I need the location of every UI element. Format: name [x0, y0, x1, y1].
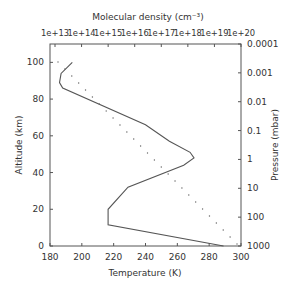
top-tick-label: 1e+17	[147, 28, 175, 38]
plot-frame	[50, 44, 241, 246]
right-tick-label: 0.1	[247, 126, 261, 136]
y-axis-ticks: 020406080100	[27, 57, 53, 251]
top-tick-label: 1e+19	[200, 28, 228, 38]
y-tick-label: 20	[33, 204, 45, 214]
x-tick-label: 200	[73, 252, 90, 262]
y-tick-label: 100	[27, 57, 44, 67]
x-tick-label: 220	[105, 252, 122, 262]
atmosphere-profile-chart: 180200220240260280300 020406080100 1e+13…	[0, 0, 290, 290]
top-tick-label: 1e+20	[227, 28, 255, 38]
top-tick-label: 1e+15	[94, 28, 122, 38]
y-tick-label: 60	[33, 131, 45, 141]
top-tick-label: 1e+13	[41, 28, 69, 38]
top-tick-label: 1e+18	[174, 28, 202, 38]
x-tick-label: 280	[201, 252, 218, 262]
x-tick-label: 260	[169, 252, 186, 262]
right-tick-label: 10	[247, 183, 259, 193]
y-tick-label: 40	[33, 168, 45, 178]
y-tick-label: 80	[33, 94, 45, 104]
x-tick-label: 300	[232, 252, 249, 262]
density-dotted-line	[57, 61, 237, 244]
y-tick-label: 0	[38, 241, 44, 251]
right-axis-label: Pressure (mbar)	[270, 109, 280, 181]
temperature-line	[60, 62, 224, 246]
top-axis-label: Molecular density (cm⁻³)	[92, 12, 204, 22]
right-tick-label: 1	[247, 154, 253, 164]
right-tick-label: 0.001	[247, 68, 273, 78]
y-axis-label: Altitude (km)	[14, 115, 24, 174]
right-tick-label: 100	[247, 212, 264, 222]
x-tick-label: 240	[137, 252, 154, 262]
right-tick-label: 0.01	[247, 97, 267, 107]
right-tick-label: 0.0001	[247, 39, 279, 49]
x-tick-label: 180	[41, 252, 58, 262]
top-tick-label: 1e+16	[121, 28, 149, 38]
top-tick-label: 1e+14	[67, 28, 95, 38]
right-tick-label: 1000	[247, 241, 270, 251]
x-axis-label: Temperature (K)	[108, 268, 182, 278]
